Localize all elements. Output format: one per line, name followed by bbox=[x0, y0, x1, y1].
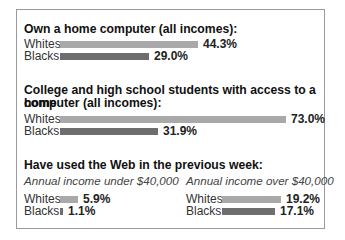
group-label: Blacks bbox=[24, 124, 60, 138]
section-2-heading-cont: computer (all incomes): bbox=[24, 97, 161, 110]
bar-whites bbox=[60, 116, 286, 123]
value-label: 17.1% bbox=[280, 204, 314, 218]
value-label: 44.3% bbox=[203, 37, 237, 51]
section-1-heading: Own a home computer (all incomes): bbox=[24, 23, 237, 36]
section-3-heading: Have used the Web in the previous week: bbox=[24, 159, 263, 172]
panel-subtitle-over-40k: Annual income over $40,000 bbox=[186, 174, 334, 187]
bar-whites bbox=[222, 196, 281, 203]
panel-subtitle-under-40k: Annual income under $40,000 bbox=[24, 174, 179, 187]
bar-row-blacks: Blacks 29.0% bbox=[24, 50, 188, 62]
bar-blacks bbox=[222, 208, 275, 215]
bar-blacks bbox=[60, 128, 158, 135]
group-label: Blacks bbox=[186, 204, 222, 218]
group-label: Blacks bbox=[24, 204, 60, 218]
value-label: 29.0% bbox=[154, 49, 188, 63]
value-label: 31.9% bbox=[163, 124, 197, 138]
bar-row-blacks: Blacks 17.1% bbox=[186, 205, 314, 217]
group-label: Blacks bbox=[24, 49, 60, 63]
bar-row-blacks: Blacks 31.9% bbox=[24, 125, 197, 137]
value-label: 73.0% bbox=[291, 112, 325, 126]
bar-blacks bbox=[60, 53, 149, 60]
bar-whites bbox=[60, 196, 78, 203]
bar-row-blacks: Blacks 1.1% bbox=[24, 205, 95, 217]
bar-blacks bbox=[60, 208, 63, 215]
bar-whites bbox=[60, 41, 198, 48]
value-label: 1.1% bbox=[68, 204, 95, 218]
